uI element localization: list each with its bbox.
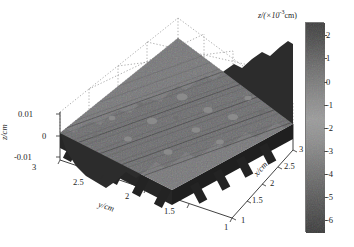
colorbar-tick-3: -1	[326, 100, 333, 110]
y-tick-1: 2.5	[73, 178, 84, 187]
colorbar-title-suffix: cm)	[284, 11, 296, 20]
colorbar-tick-6: -4	[326, 169, 333, 179]
y-tick-4: 1	[224, 223, 228, 232]
colorbar-tick-0: 2	[326, 30, 330, 40]
colorbar-title-prefix: z/(×10	[258, 11, 279, 20]
colorbar-tick-7: -5	[326, 192, 333, 202]
colorbar	[305, 22, 324, 232]
x-tick-3: 2.5	[284, 162, 295, 171]
y-tick-3: 1.5	[164, 207, 175, 216]
z-tick-1: 0	[42, 132, 46, 141]
colorbar-gradient	[306, 23, 325, 233]
colorbar-title: z/(×10-3cm)	[258, 9, 297, 20]
x-tick-1: 1.5	[252, 196, 263, 205]
x-tick-4: 3	[299, 145, 303, 154]
colorbar-tick-2: 0	[326, 77, 330, 87]
z-tick-2: -0.01	[14, 153, 32, 162]
colorbar-tick-8: -6	[326, 215, 333, 225]
surface-mesh	[46, 24, 332, 208]
plot-canvas	[0, 0, 354, 247]
colorbar-tick-1: 1	[326, 53, 330, 63]
z-axis-label: z/cm	[0, 124, 8, 140]
colorbar-tick-4: -2	[326, 123, 333, 133]
y-tick-2: 2	[125, 192, 129, 201]
y-tick-0: 3	[32, 163, 36, 172]
z-tick-0: 0.01	[18, 110, 33, 119]
figure-3d-surface-plot: 0.01 0 -0.01 z/cm 3 2.5 2 1.5 1 y/cm 1 1…	[0, 0, 354, 247]
colorbar-tick-5: -3	[326, 146, 333, 156]
x-tick-2: 2	[270, 179, 274, 188]
x-tick-0: 1	[241, 216, 245, 225]
